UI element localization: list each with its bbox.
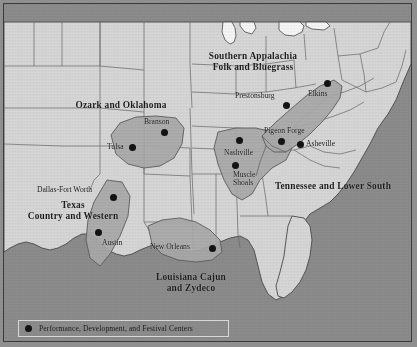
- city-dot-pigeon-forge: [278, 138, 285, 145]
- region-label-louisiana-cajun-zydeco: Louisiana Cajun and Zydeco: [135, 272, 247, 293]
- city-label-pigeon-forge: Pigeon Forge: [264, 127, 305, 135]
- map-container: Southern Appalachia Folk and Bluegrass O…: [0, 0, 417, 347]
- legend-marker-icon: [25, 325, 32, 332]
- region-label-southern-appalachia: Southern Appalachia Folk and Bluegrass: [192, 51, 314, 72]
- city-dot-elkins: [324, 80, 331, 87]
- city-label-dallas-fort-worth: Dallas-Fort Worth: [37, 186, 92, 194]
- region-label-ozark-oklahoma: Ozark and Oklahoma: [62, 100, 180, 111]
- city-label-tulsa: Tulsa: [107, 143, 124, 151]
- city-label-prestonsburg: Prestonsburg: [235, 92, 275, 100]
- map-frame: Southern Appalachia Folk and Bluegrass O…: [3, 3, 412, 342]
- city-dot-nashville: [236, 137, 243, 144]
- map-legend: Performance, Development, and Festival C…: [18, 320, 229, 337]
- city-dot-branson: [161, 129, 168, 136]
- city-dot-asheville: [297, 141, 304, 148]
- region-label-texas-country-western: Texas Country and Western: [14, 200, 132, 221]
- city-dot-new-orleans: [209, 245, 216, 252]
- city-dot-austin: [95, 229, 102, 236]
- city-label-asheville: Asheville: [306, 140, 335, 148]
- city-label-austin: Austin: [102, 239, 122, 247]
- city-label-nashville: Nashville: [224, 149, 253, 157]
- city-dot-muscle-shoals: [232, 162, 239, 169]
- city-label-muscle-shoals: Muscle Shoals: [233, 171, 255, 187]
- city-dot-dallas-fort-worth: [110, 194, 117, 201]
- city-dot-prestonsburg: [283, 102, 290, 109]
- city-dot-tulsa: [129, 144, 136, 151]
- region-label-tennessee-lower-south: Tennessee and Lower South: [259, 181, 407, 192]
- city-label-elkins: Elkins: [308, 90, 327, 98]
- legend-label: Performance, Development, and Festival C…: [39, 324, 193, 333]
- city-label-new-orleans: New Orleans: [150, 243, 190, 251]
- city-label-branson: Branson: [144, 118, 169, 126]
